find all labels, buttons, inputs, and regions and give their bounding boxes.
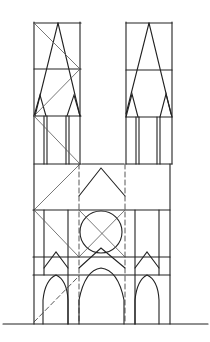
facade-drawing xyxy=(0,0,210,342)
right-portal xyxy=(135,275,159,324)
facade-body xyxy=(33,164,170,324)
left-portal xyxy=(43,275,68,324)
left-tower xyxy=(34,22,81,324)
central-portal xyxy=(79,268,124,324)
right-tower xyxy=(126,22,172,164)
